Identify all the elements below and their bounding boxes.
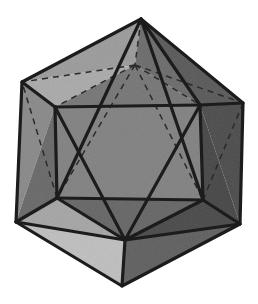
icosahedron-svg: [0, 0, 258, 304]
icosahedron-visible-edge: [57, 198, 203, 200]
icosahedron-visible-edge: [200, 103, 243, 105]
icosahedron-figure: [0, 0, 258, 304]
icosahedron-visible-edge: [55, 107, 57, 198]
icosahedron-visible-edge: [55, 105, 200, 107]
